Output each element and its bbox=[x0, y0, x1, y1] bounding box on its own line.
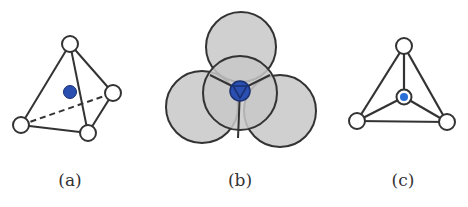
panel-b-spheres bbox=[166, 12, 316, 147]
label-c: (c) bbox=[392, 170, 415, 190]
label-a: (a) bbox=[58, 170, 81, 190]
interstitial-atom-a bbox=[64, 86, 77, 99]
panel-c-tetrahedron-top bbox=[357, 46, 447, 122]
label-b: (b) bbox=[228, 170, 252, 190]
interstitial-atom-c bbox=[400, 93, 408, 101]
